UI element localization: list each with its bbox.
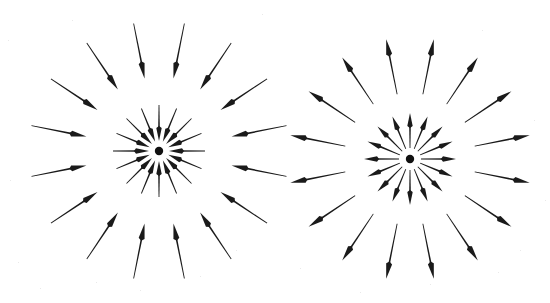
figure-background [0, 0, 550, 303]
radial-field-figure [0, 0, 550, 303]
diverging-radial-field-charge-dot [406, 155, 414, 163]
converging-radial-field-charge-dot [155, 147, 163, 155]
